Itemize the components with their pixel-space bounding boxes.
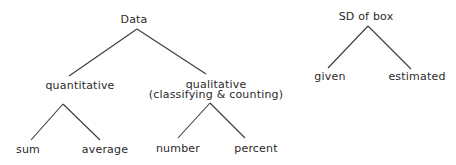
edge-data-quantitative <box>69 29 137 76</box>
edge-quantitative-average <box>63 104 100 140</box>
edge-data-qualitative <box>137 29 206 74</box>
edge-quantitative-sum <box>31 104 63 140</box>
edge-sd-given <box>328 26 368 68</box>
edge-sd-estimated <box>368 26 411 69</box>
node-sum: sum <box>16 144 40 155</box>
node-estimated: estimated <box>388 71 445 82</box>
node-quantitative: quantitative <box>45 80 114 91</box>
node-average: average <box>82 144 128 155</box>
edge-qualitative-percent <box>210 103 245 138</box>
node-data-root: Data <box>120 14 147 25</box>
node-percent: percent <box>234 143 278 154</box>
node-qualitative: qualitative (classifying & counting) <box>149 80 284 100</box>
node-sd-of-box-root: SD of box <box>339 11 394 22</box>
edge-qualitative-number <box>178 103 210 138</box>
node-qualitative-sublabel: (classifying & counting) <box>149 90 284 100</box>
node-given: given <box>314 71 345 82</box>
node-number: number <box>156 143 200 154</box>
